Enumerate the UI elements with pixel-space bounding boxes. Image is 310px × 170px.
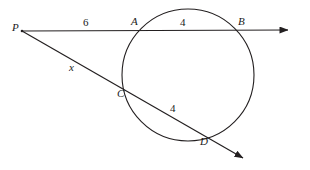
point-label-a: A <box>131 16 138 27</box>
segment-measure-ab: 4 <box>180 17 186 28</box>
geometry-canvas <box>0 0 310 170</box>
point-label-c: C <box>117 88 124 99</box>
circle-shape <box>122 9 254 141</box>
point-label-d: D <box>200 136 208 147</box>
point-label-b: B <box>238 16 245 27</box>
segment-measure-cd: 4 <box>170 103 176 114</box>
secant-ray-pab <box>22 30 288 31</box>
geometry-figure: P A B C D 6 4 x 4 <box>0 0 310 170</box>
point-label-p: P <box>12 22 19 33</box>
point-p-marker <box>21 30 24 33</box>
segment-measure-pc: x <box>69 62 74 73</box>
segment-measure-pa: 6 <box>83 17 89 28</box>
secant-ray-pcd <box>22 31 243 158</box>
